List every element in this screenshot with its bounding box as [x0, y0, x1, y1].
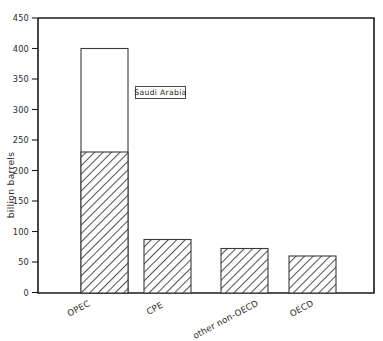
bar-chart: 450 400 350 300 250 200 [0, 0, 383, 341]
y-tick-label: 350 [13, 74, 29, 84]
y-tick-label: 0 [24, 288, 29, 298]
y-tick-label: 300 [13, 105, 29, 115]
chart-container: 450 400 350 300 250 200 [0, 0, 383, 341]
bar-cpe-value[interactable] [144, 240, 191, 294]
saudi-arabia-callout[interactable]: Saudi Arabia [134, 87, 186, 99]
y-tick-label: 400 [13, 44, 29, 54]
bar-cpe[interactable] [144, 240, 191, 294]
bar-opec-saudi-arabia[interactable] [81, 152, 128, 293]
bar-opec[interactable] [81, 49, 128, 294]
saudi-arabia-callout-label: Saudi Arabia [134, 88, 186, 97]
bar-other-non-oecd[interactable] [221, 249, 268, 294]
bar-oecd-value[interactable] [289, 256, 336, 293]
y-tick-label: 50 [18, 257, 29, 267]
y-axis-title: billion barrels [5, 152, 16, 219]
bar-oecd[interactable] [289, 256, 336, 293]
y-tick-label: 100 [13, 227, 29, 237]
y-tick-label: 250 [13, 135, 29, 145]
y-tick-label: 450 [13, 13, 29, 23]
bar-other-non-oecd-value[interactable] [221, 249, 268, 294]
